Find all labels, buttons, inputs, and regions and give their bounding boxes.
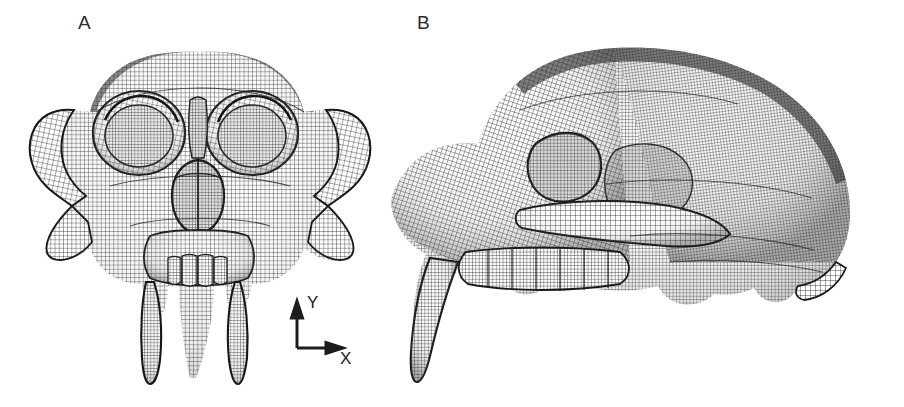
axis-a-x-label: X — [340, 350, 351, 367]
incisor-row — [168, 255, 227, 287]
axis-indicator-a: Y X — [283, 296, 355, 372]
axis-a-y-label: Y — [307, 294, 318, 311]
orbit-left-anterior — [93, 91, 185, 175]
panel-b-mesh-holder — [370, 0, 904, 407]
nasal-bridge — [189, 97, 208, 158]
panel-a: A — [0, 0, 400, 407]
nasal-aperture — [172, 160, 224, 234]
canine-lateral — [411, 258, 458, 382]
tooth-row-lateral — [459, 247, 629, 291]
figure-canvas: A — [0, 0, 904, 407]
skull-mesh-lateral — [370, 0, 904, 407]
panel-b: B — [370, 0, 904, 407]
orbit-right-anterior — [206, 91, 298, 175]
orbit-lateral — [528, 133, 601, 202]
